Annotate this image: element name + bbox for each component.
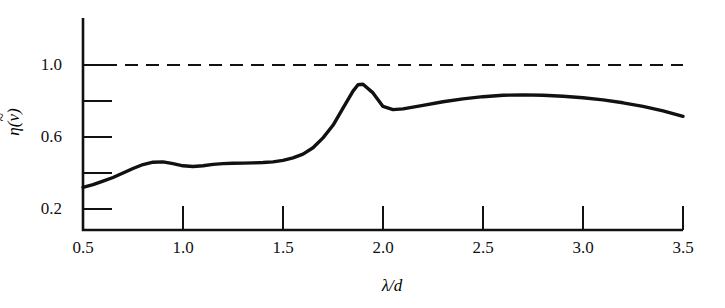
x-tick-label-3.0: 3.0	[572, 238, 593, 258]
x-axis-title: λ/d	[382, 276, 403, 296]
x-tick-label-2.5: 2.5	[472, 238, 493, 258]
x-tick-label-2.0: 2.0	[372, 238, 393, 258]
y-axis-title: η(~ν)	[4, 108, 24, 135]
x-tick-label-1.0: 1.0	[172, 238, 193, 258]
y-tick-label-0.6: 0.6	[26, 127, 62, 147]
x-axis-ticks	[83, 206, 683, 230]
x-tick-label-0.5: 0.5	[72, 238, 93, 258]
x-tick-label-1.5: 1.5	[272, 238, 293, 258]
figure-container: 1.0 0.6 0.2 0.5 1.0 1.5 2.0 2.5 3.0 3.5 …	[0, 0, 725, 308]
chart-canvas	[0, 0, 725, 308]
efficiency-curve	[83, 84, 683, 187]
axis-spines	[83, 18, 683, 230]
y-tick-label-1.0: 1.0	[26, 55, 62, 75]
x-tick-label-3.5: 3.5	[672, 238, 693, 258]
y-tick-label-0.2: 0.2	[26, 199, 62, 219]
y-axis-title-nu-tilde: ~ν	[4, 114, 24, 122]
y-axis-title-eta: η(	[4, 122, 23, 136]
